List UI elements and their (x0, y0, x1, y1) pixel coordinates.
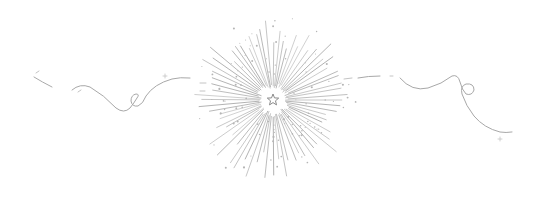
divider-artwork (0, 0, 542, 199)
center-star-icon (267, 94, 278, 105)
starburst-rays (195, 21, 347, 177)
left-swirl-flourish (34, 71, 206, 111)
right-swirl-flourish (344, 76, 512, 141)
decorative-divider (0, 0, 542, 199)
